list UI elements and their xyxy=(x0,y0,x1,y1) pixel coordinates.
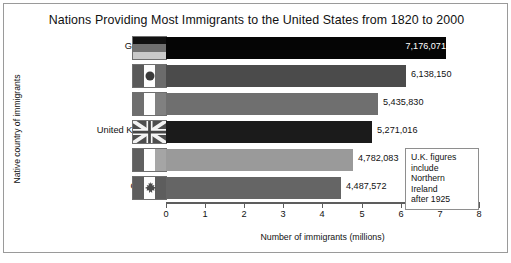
annotation-line: after 1925 xyxy=(411,194,474,205)
x-tick-8 xyxy=(479,202,480,208)
flag-germany-icon xyxy=(132,36,167,60)
x-tick-label-2: 2 xyxy=(234,209,254,219)
table-row: Italy 5,435,830 xyxy=(166,90,479,118)
bar-value-germany: 7,176,071 xyxy=(406,41,446,51)
x-tick-label-8: 8 xyxy=(469,209,489,219)
flag-canada-icon xyxy=(132,176,167,200)
x-tick-label-6: 6 xyxy=(391,209,411,219)
bar-value-ireland: 4,782,083 xyxy=(358,153,398,163)
bar-canada xyxy=(166,177,341,199)
chart-frame: Nations Providing Most Immigrants to the… xyxy=(3,3,508,253)
x-tick-label-5: 5 xyxy=(352,209,372,219)
x-tick-3 xyxy=(283,202,284,208)
bar-value-italy: 5,435,830 xyxy=(383,97,423,107)
x-tick-label-3: 3 xyxy=(273,209,293,219)
bar-value-united-kingdom: 5,271,016 xyxy=(377,125,417,135)
x-tick-label-0: 0 xyxy=(156,209,176,219)
annotation-line: include xyxy=(411,163,474,174)
x-tick-label-7: 7 xyxy=(430,209,450,219)
x-tick-5 xyxy=(362,202,363,208)
maple-leaf-icon xyxy=(142,181,157,196)
x-tick-2 xyxy=(244,202,245,208)
x-tick-label-4: 4 xyxy=(312,209,332,219)
chart-title: Nations Providing Most Immigrants to the… xyxy=(4,13,509,27)
flag-italy-icon xyxy=(132,92,167,116)
flag-ireland-icon xyxy=(132,148,167,172)
x-tick-4 xyxy=(322,202,323,208)
bar-united-kingdom xyxy=(166,121,372,143)
y-axis-label: Native country of immigrants xyxy=(12,54,22,204)
union-jack-glyph xyxy=(133,121,166,143)
bar-italy xyxy=(166,93,378,115)
annotation-line: Ireland xyxy=(411,184,474,195)
table-row: Germany 7,176,071 xyxy=(166,34,479,62)
x-tick-6 xyxy=(401,202,402,208)
x-tick-1 xyxy=(205,202,206,208)
annotation-line: U.K. figures xyxy=(411,152,474,163)
flag-united-kingdom-icon xyxy=(132,120,167,144)
x-tick-label-1: 1 xyxy=(195,209,215,219)
x-tick-0 xyxy=(166,202,167,208)
table-row: United Kingdom 5,271,016 xyxy=(166,118,479,146)
bar-germany xyxy=(166,37,446,59)
bar-value-canada: 4,487,572 xyxy=(346,181,386,191)
annotation-box: U.K. figures include Northern Ireland af… xyxy=(405,148,479,210)
annotation-line: Northern xyxy=(411,173,474,184)
bar-mexico xyxy=(166,65,406,87)
chart-page: Nations Providing Most Immigrants to the… xyxy=(0,0,511,263)
x-axis-label: Number of immigrants (millions) xyxy=(166,232,479,242)
bar-value-mexico: 6,138,150 xyxy=(411,69,451,79)
flag-mexico-icon xyxy=(132,64,167,88)
table-row: Mexico 6,138,150 xyxy=(166,62,479,90)
bar-ireland xyxy=(166,149,353,171)
